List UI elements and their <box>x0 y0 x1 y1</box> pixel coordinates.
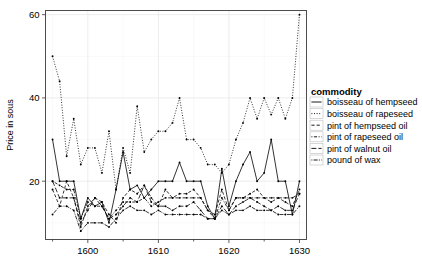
series-point <box>164 205 166 207</box>
series-point <box>115 222 117 224</box>
series-point <box>164 189 166 191</box>
series-point <box>143 184 145 186</box>
series-point <box>80 218 82 220</box>
chart-container: 204060 1600161016201630 Price in sous co… <box>0 0 422 271</box>
series-point <box>101 172 103 174</box>
series-point <box>73 209 75 211</box>
series-point <box>87 222 89 224</box>
series-point <box>270 201 272 203</box>
series-point <box>299 180 301 182</box>
series-point <box>193 197 195 199</box>
series-point <box>115 209 117 211</box>
series-point <box>263 172 265 174</box>
series-point <box>164 180 166 182</box>
series-point <box>150 189 152 191</box>
legend-item-label: pint of hempseed oil <box>327 121 408 131</box>
series-point <box>256 180 258 182</box>
legend-item-label: boisseau of rapeseed <box>327 109 413 119</box>
series-point <box>150 214 152 216</box>
series-point <box>136 184 138 186</box>
series-point <box>115 214 117 216</box>
series-point <box>108 214 110 216</box>
series-point <box>59 197 61 199</box>
y-tick-label: 20 <box>29 176 40 187</box>
series-point <box>235 197 237 199</box>
series-point <box>164 197 166 199</box>
series-point <box>157 201 159 203</box>
series-point <box>59 80 61 82</box>
series-point <box>277 180 279 182</box>
series-point <box>172 180 174 182</box>
legend-item-0[interactable]: boisseau of hempseed <box>310 97 418 107</box>
series-point <box>87 205 89 207</box>
series-point <box>270 197 272 199</box>
series-point <box>115 218 117 220</box>
series-point <box>66 155 68 157</box>
series-point <box>122 205 124 207</box>
series-point <box>143 209 145 211</box>
series-point <box>143 197 145 199</box>
series-point <box>284 214 286 216</box>
series-point <box>179 214 181 216</box>
y-tick-label: 60 <box>29 9 40 20</box>
legend-item-5[interactable]: pound of wax <box>310 155 381 165</box>
series-point <box>80 222 82 224</box>
series-point <box>291 205 293 207</box>
series-point <box>235 180 237 182</box>
legend-item-4[interactable]: pint of walnut oil <box>310 143 392 153</box>
series-point <box>207 209 209 211</box>
series-point <box>214 214 216 216</box>
series-point <box>136 193 138 195</box>
series-point <box>277 97 279 99</box>
series-point <box>242 122 244 124</box>
series-point <box>108 222 110 224</box>
series-point <box>52 55 54 57</box>
series-point <box>186 193 188 195</box>
series-point <box>284 180 286 182</box>
series-point <box>80 164 82 166</box>
series-point <box>172 197 174 199</box>
series-point <box>256 201 258 203</box>
series-point <box>122 209 124 211</box>
series-point <box>291 209 293 211</box>
series-point <box>94 205 96 207</box>
series-point <box>122 201 124 203</box>
series-point <box>136 201 138 203</box>
series-point <box>263 205 265 207</box>
series-point <box>73 180 75 182</box>
series-point <box>200 214 202 216</box>
series-point <box>242 209 244 211</box>
series-point <box>122 147 124 149</box>
series-point <box>179 197 181 199</box>
series-point <box>242 164 244 166</box>
series-point <box>73 118 75 120</box>
series-point <box>66 197 68 199</box>
series-point <box>263 197 265 199</box>
series-point <box>242 197 244 199</box>
series-point <box>249 205 251 207</box>
series-point <box>186 214 188 216</box>
series-point <box>249 197 251 199</box>
series-point <box>221 197 223 199</box>
series-point <box>256 209 258 211</box>
series-point <box>157 205 159 207</box>
series-point <box>228 205 230 207</box>
series-point <box>228 214 230 216</box>
series-point <box>179 97 181 99</box>
y-tick-label: 40 <box>29 92 40 103</box>
series-point <box>66 180 68 182</box>
series-point <box>52 214 54 216</box>
series-point <box>94 197 96 199</box>
series-point <box>214 164 216 166</box>
series-point <box>108 130 110 132</box>
series-point <box>52 139 54 141</box>
series-point <box>143 151 145 153</box>
series-point <box>299 14 301 16</box>
series-point <box>101 222 103 224</box>
series-point <box>94 147 96 149</box>
series-point <box>277 197 279 199</box>
series-point <box>179 193 181 195</box>
series-point <box>221 168 223 170</box>
series-point <box>87 209 89 211</box>
series-point <box>193 201 195 203</box>
